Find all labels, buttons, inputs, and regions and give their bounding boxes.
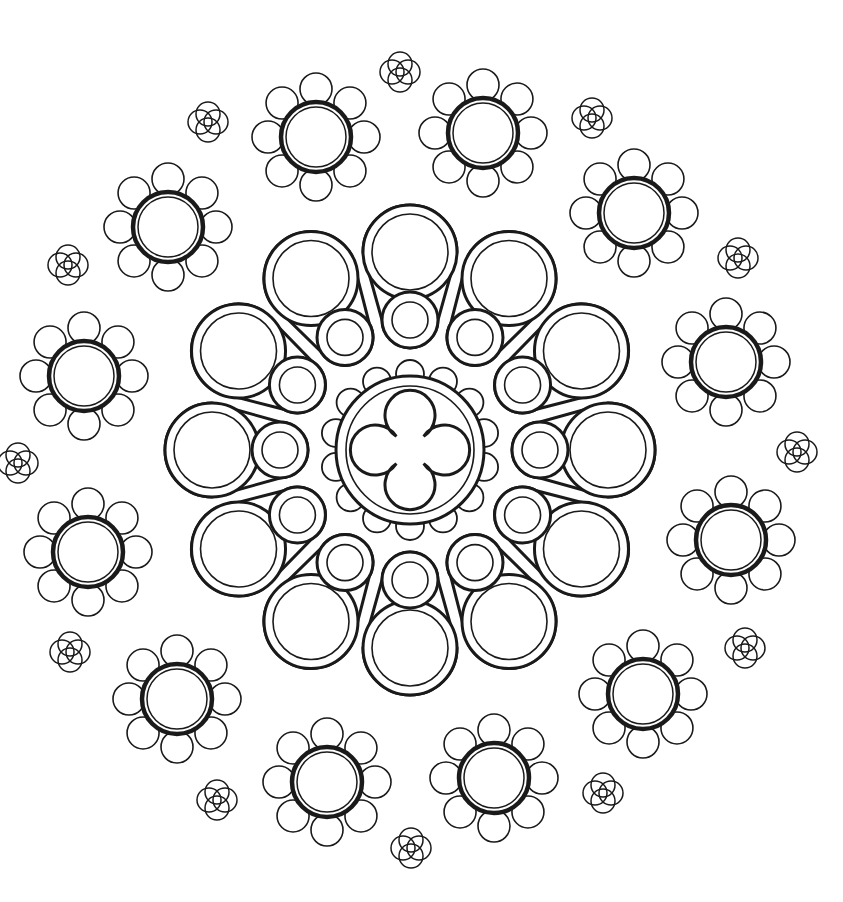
flower-medallion — [104, 163, 232, 291]
flower-ring — [53, 517, 123, 587]
lancet-small-outer — [382, 552, 438, 608]
flower-ring — [133, 192, 203, 262]
lancet-big-outer — [561, 403, 655, 497]
flower-medallion — [263, 718, 391, 846]
rose-window-artwork — [0, 0, 843, 902]
lancet-small-outer — [269, 357, 325, 413]
flower-medallion — [252, 73, 380, 201]
flower-medallion — [667, 476, 795, 604]
lancet-small-outer — [269, 487, 325, 543]
flower-ring — [696, 505, 766, 575]
flower-medallion — [570, 149, 698, 277]
flower-ring — [691, 327, 761, 397]
lancet-small-outer — [252, 422, 308, 478]
flower-medallion — [419, 69, 547, 197]
lancet-small-outer — [317, 535, 373, 591]
flower-ring — [459, 743, 529, 813]
lancet-small-outer — [495, 357, 551, 413]
flower-ring — [292, 747, 362, 817]
flower-ring — [142, 664, 212, 734]
flower-ring — [448, 98, 518, 168]
lancet-big-outer — [363, 601, 457, 695]
lancet-small-outer — [512, 422, 568, 478]
lancet-small-outer — [495, 487, 551, 543]
lancet-small-outer — [382, 292, 438, 348]
flower-medallion — [20, 312, 148, 440]
flower-ring — [49, 341, 119, 411]
lancet-big-outer — [363, 205, 457, 299]
flower-medallion — [662, 298, 790, 426]
rose-window-svg — [0, 0, 843, 902]
flower-ring — [599, 178, 669, 248]
flower-ring — [608, 659, 678, 729]
flower-ring — [281, 102, 351, 172]
lancet-small-outer — [447, 309, 503, 365]
flower-medallion — [430, 714, 558, 842]
flower-medallion — [113, 635, 241, 763]
lancet-small-outer — [447, 535, 503, 591]
flower-medallion — [24, 488, 152, 616]
lancet-small-outer — [317, 309, 373, 365]
flower-medallion — [579, 630, 707, 758]
lancet-big-outer — [165, 403, 259, 497]
